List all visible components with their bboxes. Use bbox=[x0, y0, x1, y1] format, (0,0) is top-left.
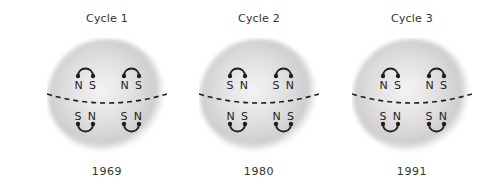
cycle-panel-3: Cycle 3 N S N S S N S N 1991 bbox=[332, 0, 492, 188]
cycle-title: Cycle 3 bbox=[332, 12, 492, 25]
cycle-year: 1969 bbox=[27, 165, 187, 178]
polarity-label-north-right: S N bbox=[269, 79, 299, 92]
cycle-panel-2: Cycle 2 S N S N N S N S 1980 bbox=[179, 0, 339, 188]
sun-sphere: N S N S S N S N bbox=[47, 38, 167, 154]
polarity-label-north-left: S N bbox=[223, 79, 253, 92]
polarity-label-north-right: N S bbox=[117, 79, 147, 92]
polarity-label-north-left: N S bbox=[376, 79, 406, 92]
polarity-label-south-left: S N bbox=[71, 110, 101, 123]
polarity-label-south-right: N S bbox=[269, 110, 299, 123]
sun-sphere: N S N S S N S N bbox=[352, 38, 472, 154]
polarity-label-south-left: N S bbox=[223, 110, 253, 123]
polarity-label-north-left: N S bbox=[71, 79, 101, 92]
cycle-year: 1991 bbox=[332, 165, 492, 178]
polarity-label-south-right: S N bbox=[422, 110, 452, 123]
polarity-label-south-left: S N bbox=[376, 110, 406, 123]
sun-sphere: S N S N N S N S bbox=[199, 38, 319, 154]
polarity-label-north-right: N S bbox=[422, 79, 452, 92]
cycle-title: Cycle 1 bbox=[27, 12, 187, 25]
polarity-label-south-right: S N bbox=[117, 110, 147, 123]
cycle-panel-1: Cycle 1 N S N S S N S N 1969 bbox=[27, 0, 187, 188]
cycle-title: Cycle 2 bbox=[179, 12, 339, 25]
cycle-year: 1980 bbox=[179, 165, 339, 178]
